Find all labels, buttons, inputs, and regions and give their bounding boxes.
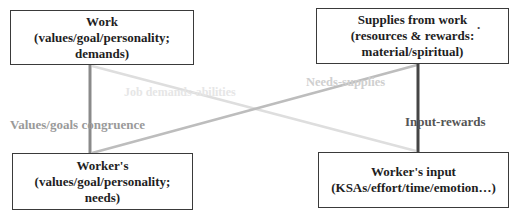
node-worker-line3: needs)	[85, 190, 120, 206]
node-work: Work (values/goal/personality; demands)	[10, 10, 194, 65]
node-work-line3: demands)	[75, 46, 129, 62]
label-needs-supplies: Needs-supplies	[306, 75, 385, 89]
node-worker-title: Worker's	[77, 158, 129, 174]
node-worker-input: Worker's input (KSAs/effort/time/emotion…	[318, 152, 509, 208]
node-worker-line2: (values/goal/personality;	[35, 174, 171, 190]
diagram-canvas: Job demands-abilities Needs-supplies Val…	[0, 0, 515, 215]
node-supplies-title: Supplies from work	[358, 12, 468, 28]
node-worker: Worker's (values/goal/personality; needs…	[12, 153, 193, 210]
label-job-demands-abilities: Job demands-abilities	[124, 85, 236, 99]
node-supplies-line2: (resources & rewards:	[351, 28, 474, 44]
label-input-rewards: Input-rewards	[405, 115, 486, 129]
node-supplies-line3: material/spiritual)	[362, 44, 464, 60]
node-work-line2: (values/goal/personality;	[34, 30, 170, 46]
node-work-title: Work	[86, 14, 118, 30]
label-values-goals-congruence: Values/goals congruence	[10, 118, 145, 132]
node-input-line2: (KSAs/effort/time/emotion…)	[331, 180, 496, 196]
node-input-title: Worker's input	[371, 164, 456, 180]
stray-period-mark: .	[477, 17, 480, 33]
